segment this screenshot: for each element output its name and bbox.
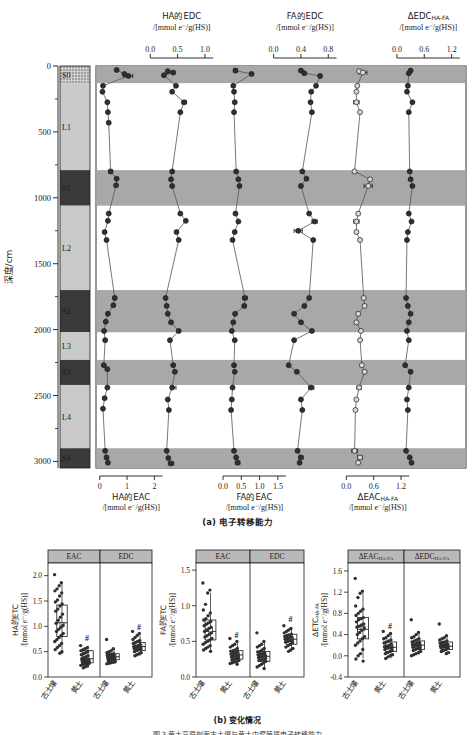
depth-tick-label: 2500 bbox=[34, 391, 51, 401]
data-point-marker bbox=[100, 83, 105, 88]
boxplot-scatter-point bbox=[53, 589, 56, 592]
depth-axis-label: 深度/cm bbox=[3, 250, 14, 285]
data-point-marker bbox=[408, 311, 413, 316]
data-point-marker bbox=[296, 228, 301, 233]
data-point-marker bbox=[358, 338, 363, 343]
panel-b-content: EACEDC0.00.51.01.52.0HA的ETC/[mmol e⁻/g(H… bbox=[10, 550, 460, 701]
boxplot-y-tick-label: 0.8 bbox=[333, 609, 343, 618]
data-point-marker bbox=[409, 460, 414, 465]
top-axis-unit: /[mmol e⁻/g(HS)] bbox=[400, 23, 458, 32]
data-point-marker bbox=[286, 363, 291, 368]
data-point-marker bbox=[309, 328, 314, 333]
boxplot-chart-ha_etc: EACEDC0.00.51.01.52.0HA的ETC/[mmol e⁻/g(H… bbox=[10, 550, 152, 701]
boxplot-scatter-point bbox=[445, 652, 448, 655]
boxplot-scatter-point bbox=[208, 588, 211, 591]
bottom-axis-unit: /[mmol e⁻/g(HS)] bbox=[226, 503, 284, 512]
data-point-marker bbox=[171, 363, 176, 368]
boxplot-scatter-point bbox=[384, 652, 387, 655]
boxplot-x-label: 黄土 bbox=[68, 678, 85, 696]
boxplot-scatter-point bbox=[438, 638, 441, 641]
data-point-marker bbox=[302, 303, 307, 308]
data-point-marker bbox=[359, 363, 364, 368]
data-point-marker bbox=[232, 338, 237, 343]
data-point-marker bbox=[104, 455, 109, 460]
boxplot-scatter-point bbox=[57, 619, 60, 622]
boxplot-scatter-point bbox=[228, 637, 231, 640]
data-point-marker bbox=[356, 211, 361, 216]
data-point-marker bbox=[233, 68, 238, 73]
boxplot-scatter-point bbox=[203, 630, 206, 633]
data-point-marker bbox=[407, 169, 412, 174]
boxplot-scatter-point bbox=[105, 638, 108, 641]
data-point-marker bbox=[298, 320, 303, 325]
data-point-marker bbox=[102, 396, 107, 401]
boxplot-scatter-point bbox=[356, 633, 359, 636]
boxplot-scatter-point bbox=[202, 618, 205, 621]
data-point-marker bbox=[114, 183, 119, 188]
bottom-axis-tick-label: 2 bbox=[152, 482, 156, 491]
boxplot-scatter-point bbox=[209, 650, 212, 653]
boxplot-scatter-point bbox=[262, 640, 265, 643]
data-point-marker bbox=[170, 89, 175, 94]
panel-a-content: S0L1S1L2S2L3S3L4S40500100015002000250030… bbox=[3, 11, 466, 512]
data-point-marker bbox=[232, 363, 237, 368]
significance-marker: # bbox=[388, 622, 392, 631]
data-point-marker bbox=[356, 311, 361, 316]
data-point-marker bbox=[170, 385, 175, 390]
data-point-marker bbox=[111, 303, 116, 308]
depth-tick-label: 0 bbox=[47, 61, 51, 71]
data-point-marker bbox=[403, 363, 408, 368]
data-point-marker bbox=[103, 448, 108, 453]
boxplot-header-label: EDC bbox=[270, 552, 285, 561]
data-point-marker bbox=[105, 311, 110, 316]
data-point-marker bbox=[173, 83, 178, 88]
boxplot-header-label: EAC bbox=[67, 552, 82, 561]
boxplot-scatter-point bbox=[354, 604, 357, 607]
boxplot-chart-fa_etc: EACEDC0.00.51.01.5FA的ETC/[mmol e⁻/g(HS)]… bbox=[158, 550, 304, 701]
boxplot-scatter-point bbox=[235, 640, 238, 643]
data-point-marker bbox=[161, 73, 166, 78]
boxplot-y-tick-label: 1.2 bbox=[333, 588, 343, 597]
boxplot-scatter-point bbox=[356, 596, 359, 599]
bottom-axis-tick-label: 0.0 bbox=[218, 482, 228, 491]
boxplot-scatter-point bbox=[79, 649, 82, 652]
data-point-marker bbox=[362, 369, 367, 374]
data-point-marker bbox=[232, 230, 237, 235]
boxplot-scatter-point bbox=[438, 622, 441, 625]
stratum-label-S0: S0 bbox=[62, 71, 70, 80]
boxplot-scatter-point bbox=[440, 650, 443, 653]
data-point-marker bbox=[108, 169, 113, 174]
boxplot-scatter-point bbox=[354, 577, 357, 580]
data-point-marker bbox=[165, 69, 170, 74]
boxplot-y-label-unit: /[mmol e⁻/g(HS)] bbox=[320, 593, 329, 647]
boxplot-scatter-point bbox=[57, 584, 60, 587]
boxplot-scatter-point bbox=[53, 648, 56, 651]
data-point-marker bbox=[360, 70, 365, 75]
boxplot-scatter-point bbox=[262, 667, 265, 670]
boxplot-scatter-point bbox=[382, 641, 385, 644]
data-point-marker bbox=[300, 169, 305, 174]
boxplot-scatter-point bbox=[53, 640, 56, 643]
data-point-marker bbox=[229, 328, 234, 333]
boxplot-scatter-point bbox=[256, 645, 259, 648]
data-point-marker bbox=[103, 319, 108, 324]
boxplot-scatter-point bbox=[283, 631, 286, 634]
data-point-marker bbox=[407, 455, 412, 460]
data-point-marker bbox=[170, 183, 175, 188]
data-point-marker bbox=[236, 219, 241, 224]
data-point-marker bbox=[353, 408, 358, 413]
bottom-axes: 012HA的EAC/[mmol e⁻/g(HS)]0.00.51.01.5FA的… bbox=[98, 476, 410, 512]
data-point-marker bbox=[114, 67, 119, 72]
top-axis-tick-label: 0.0 bbox=[145, 45, 155, 54]
top-axis-unit: /[mmol e⁻/g(HS)] bbox=[153, 23, 211, 32]
boxplot-scatter-point bbox=[284, 645, 287, 648]
bottom-axis-unit: /[mmol e⁻/g(HS)] bbox=[349, 503, 407, 512]
boxplot-scatter-point bbox=[105, 662, 108, 665]
boxplot-scatter-point bbox=[202, 624, 205, 627]
boxplot-scatter-point bbox=[354, 657, 357, 660]
boxplot-scatter-point bbox=[255, 631, 258, 634]
data-point-marker bbox=[309, 89, 314, 94]
boxplot-scatter-point bbox=[412, 649, 415, 652]
data-point-marker bbox=[114, 176, 119, 181]
